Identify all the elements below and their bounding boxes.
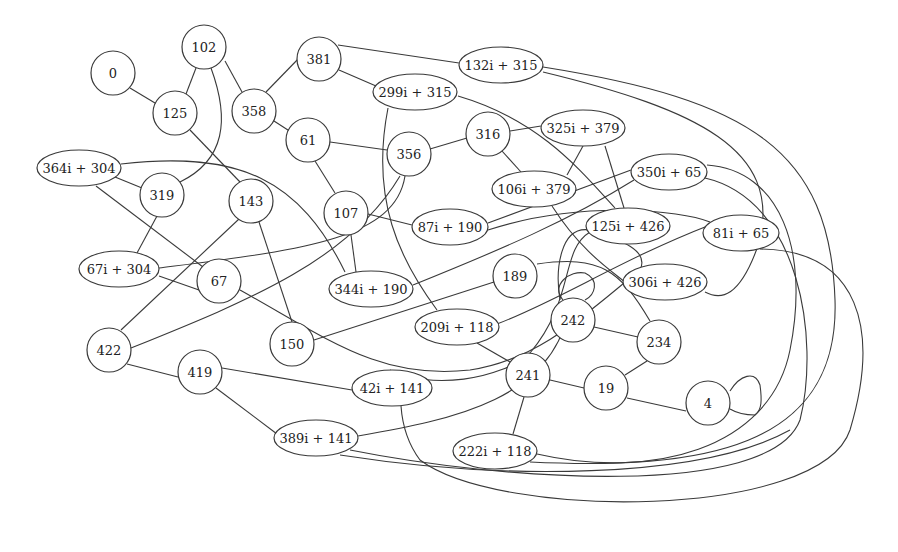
edge-n61-n107 bbox=[315, 161, 335, 193]
node-n87i[interactable]: 87i + 190 bbox=[412, 209, 488, 245]
node-label: 125i + 426 bbox=[592, 219, 665, 234]
node-n107[interactable]: 107 bbox=[324, 191, 368, 235]
node-n325i[interactable]: 325i + 379 bbox=[541, 110, 625, 146]
edge-n358-n381 bbox=[266, 56, 301, 92]
edge-n241-n19 bbox=[550, 380, 584, 388]
node-label: 132i + 315 bbox=[465, 58, 538, 73]
node-label: 143 bbox=[239, 194, 264, 209]
node-label: 125 bbox=[163, 106, 188, 121]
node-label: 316 bbox=[476, 127, 501, 142]
node-n125[interactable]: 125 bbox=[153, 91, 197, 135]
edge-n316-n106i bbox=[502, 151, 521, 172]
node-label: 102 bbox=[192, 40, 217, 55]
node-label: 67 bbox=[211, 274, 228, 289]
edge-n4-n4 bbox=[730, 376, 761, 415]
edge-n241-n222i bbox=[513, 397, 524, 434]
node-label: 364i + 304 bbox=[43, 161, 116, 176]
node-n67[interactable]: 67 bbox=[197, 259, 241, 303]
node-label: 106i + 379 bbox=[498, 182, 571, 197]
node-label: 222i + 118 bbox=[459, 444, 532, 459]
node-n81i[interactable]: 81i + 65 bbox=[703, 215, 779, 251]
edge-n143-n150 bbox=[259, 222, 292, 322]
edge-n102-n358 bbox=[225, 61, 242, 92]
node-label: 4 bbox=[704, 396, 712, 411]
node-n422[interactable]: 422 bbox=[87, 328, 131, 372]
node-label: 189 bbox=[503, 269, 528, 284]
node-n241[interactable]: 241 bbox=[506, 353, 550, 397]
node-label: 107 bbox=[334, 206, 359, 221]
node-n67i[interactable]: 67i + 304 bbox=[79, 251, 159, 287]
edge-n422-n419 bbox=[127, 364, 178, 377]
node-label: 242 bbox=[561, 313, 586, 328]
node-label: 306i + 426 bbox=[629, 275, 702, 290]
nodes-layer: 0102125358381132i + 315299i + 3156135631… bbox=[37, 25, 779, 469]
node-label: 319 bbox=[150, 188, 175, 203]
edge-n419-n389i bbox=[216, 388, 277, 434]
node-label: 234 bbox=[647, 335, 672, 350]
node-n150[interactable]: 150 bbox=[270, 322, 314, 366]
node-n358[interactable]: 358 bbox=[232, 89, 276, 133]
edge-n125-n143 bbox=[190, 130, 240, 182]
node-n19[interactable]: 19 bbox=[584, 366, 628, 410]
node-n306i[interactable]: 306i + 426 bbox=[623, 264, 707, 300]
node-label: 299i + 315 bbox=[379, 85, 452, 100]
node-label: 344i + 190 bbox=[335, 282, 408, 297]
node-label: 209i + 118 bbox=[421, 320, 494, 335]
node-label: 350i + 65 bbox=[637, 165, 702, 180]
edge-n325i-n125i bbox=[605, 146, 624, 208]
edge-n107-n87i bbox=[368, 214, 412, 225]
node-n389i[interactable]: 389i + 141 bbox=[274, 420, 358, 456]
edge-n234-n19 bbox=[625, 361, 647, 375]
node-n132i[interactable]: 132i + 315 bbox=[459, 47, 543, 83]
edge-n356-n67i bbox=[159, 176, 405, 268]
node-label: 61 bbox=[300, 133, 317, 148]
edge-n102-n125 bbox=[186, 68, 196, 94]
node-n222i[interactable]: 222i + 118 bbox=[453, 433, 537, 469]
node-label: 81i + 65 bbox=[713, 226, 769, 241]
node-n102[interactable]: 102 bbox=[182, 25, 226, 69]
node-n242[interactable]: 242 bbox=[551, 298, 595, 342]
edge-n364i-n319 bbox=[115, 177, 142, 188]
graph-diagram: 0102125358381132i + 315299i + 3156135631… bbox=[0, 0, 898, 552]
node-label: 381 bbox=[307, 52, 332, 67]
edge-n381-n299i bbox=[339, 70, 376, 86]
edge-n319-n67i bbox=[137, 216, 157, 253]
node-label: 0 bbox=[109, 66, 117, 81]
node-label: 325i + 379 bbox=[547, 121, 620, 136]
node-n319[interactable]: 319 bbox=[140, 173, 184, 217]
node-n143[interactable]: 143 bbox=[229, 179, 273, 223]
node-label: 358 bbox=[242, 104, 267, 119]
node-n189[interactable]: 189 bbox=[493, 254, 537, 298]
edge-n19-n4 bbox=[627, 398, 686, 411]
edge-n356-n316 bbox=[430, 138, 467, 149]
node-n125i[interactable]: 125i + 426 bbox=[586, 208, 670, 244]
node-n364i[interactable]: 364i + 304 bbox=[37, 150, 121, 186]
node-label: 87i + 190 bbox=[418, 220, 483, 235]
node-label: 419 bbox=[188, 365, 213, 380]
node-n209i[interactable]: 209i + 118 bbox=[415, 309, 499, 345]
node-label: 389i + 141 bbox=[280, 431, 353, 446]
node-n61[interactable]: 61 bbox=[286, 118, 330, 162]
edge-n242-n234 bbox=[594, 327, 638, 337]
node-n0[interactable]: 0 bbox=[91, 51, 135, 95]
node-n356[interactable]: 356 bbox=[387, 132, 431, 176]
node-n42i[interactable]: 42i + 141 bbox=[352, 370, 432, 406]
node-n106i[interactable]: 106i + 379 bbox=[492, 171, 576, 207]
node-label: 356 bbox=[397, 147, 422, 162]
node-n350i[interactable]: 350i + 65 bbox=[631, 154, 707, 190]
edge-n209i-n241 bbox=[477, 343, 510, 362]
node-n299i[interactable]: 299i + 315 bbox=[373, 74, 457, 110]
node-n344i[interactable]: 344i + 190 bbox=[329, 271, 413, 307]
node-n316[interactable]: 316 bbox=[466, 112, 510, 156]
edge-n381-n132i bbox=[338, 45, 459, 63]
node-label: 19 bbox=[598, 381, 615, 396]
node-n234[interactable]: 234 bbox=[637, 320, 681, 364]
node-n4[interactable]: 4 bbox=[686, 381, 730, 425]
node-label: 422 bbox=[97, 343, 122, 358]
edge-n419-n42i bbox=[222, 368, 352, 390]
edge-n107-n344i bbox=[351, 235, 356, 272]
node-label: 150 bbox=[280, 337, 305, 352]
node-label: 67i + 304 bbox=[87, 262, 152, 277]
node-n381[interactable]: 381 bbox=[297, 37, 341, 81]
node-n419[interactable]: 419 bbox=[178, 350, 222, 394]
